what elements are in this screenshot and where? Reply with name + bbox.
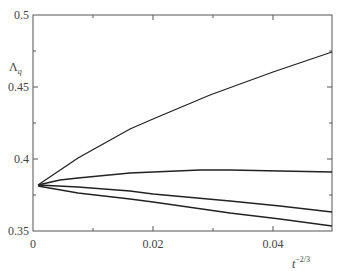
curve-3 [38,185,332,212]
y-ticks [33,51,332,195]
ytick-label-0.5: 0.5 [14,8,29,22]
ytick-label-0.45: 0.45 [8,80,29,94]
xtick-label-0: 0 [30,237,36,251]
y-axis-label: Λq [9,60,22,76]
curve-4 [38,186,332,226]
ytick-label-0.4: 0.4 [14,152,29,166]
xtick-label-0.02: 0.02 [143,237,164,251]
curves [38,52,332,226]
curve-1 [38,52,332,185]
x-axis-label: t−2/3 [292,255,310,271]
x-ticks [93,15,273,231]
xtick-label-0.04: 0.04 [263,237,284,251]
curve-2 [38,170,332,185]
chart: 0.5 0.45 0.4 0.35 0 0.02 0.04 Λq t−2/3 [0,0,342,271]
plot-frame [33,15,332,231]
ytick-label-0.35: 0.35 [8,224,29,238]
